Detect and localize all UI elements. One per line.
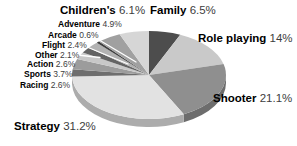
- slice-percent-text: 21.1%: [256, 92, 292, 104]
- slice-name-text: Adventure: [58, 19, 100, 29]
- slice-label-children-s: Children's 6.1%: [60, 4, 145, 16]
- slice-percent-text: 6.5%: [186, 4, 215, 16]
- slice-percent-text: 4.9%: [100, 19, 122, 29]
- slice-label-other: Other 2.1%: [35, 51, 79, 60]
- slice-name-text: Flight: [42, 40, 65, 50]
- slice-name-text: Strategy: [14, 120, 60, 132]
- slice-label-role-playing: Role playing 14%: [198, 32, 293, 44]
- slice-name-text: Role playing: [198, 32, 266, 44]
- slice-label-sports: Sports 3.7%: [24, 70, 73, 79]
- slice-percent-text: 2.6%: [48, 80, 70, 90]
- slice-name-text: Children's: [60, 4, 116, 16]
- slice-name-text: Arcade: [48, 30, 77, 40]
- slice-label-flight: Flight 2.4%: [42, 41, 87, 50]
- genre-pie-chart: Family 6.5%Role playing 14%Shooter 21.1%…: [0, 0, 297, 146]
- slice-percent-text: 14%: [266, 32, 292, 44]
- slice-name-text: Racing: [20, 80, 48, 90]
- slice-name-text: Sports: [24, 69, 51, 79]
- slice-label-arcade: Arcade 0.6%: [48, 31, 99, 40]
- slice-label-racing: Racing 2.6%: [20, 81, 70, 90]
- slice-percent-text: 2.1%: [58, 50, 80, 60]
- slice-percent-text: 3.7%: [51, 69, 73, 79]
- slice-label-shooter: Shooter 21.1%: [213, 92, 292, 104]
- slice-name-text: Family: [150, 4, 186, 16]
- slice-name-text: Shooter: [213, 92, 256, 104]
- slice-percent-text: 2.4%: [65, 40, 87, 50]
- slice-percent-text: 6.1%: [116, 4, 145, 16]
- slice-label-family: Family 6.5%: [150, 4, 216, 16]
- slice-label-adventure: Adventure 4.9%: [58, 20, 122, 29]
- slice-percent-text: 31.2%: [60, 120, 96, 132]
- slice-percent-text: 0.6%: [77, 30, 99, 40]
- slice-percent-text: 2.6%: [53, 59, 75, 69]
- slice-label-action: Action 2.6%: [27, 60, 75, 69]
- slice-label-strategy: Strategy 31.2%: [14, 120, 96, 132]
- slice-name-text: Action: [27, 59, 53, 69]
- slice-name-text: Other: [35, 50, 58, 60]
